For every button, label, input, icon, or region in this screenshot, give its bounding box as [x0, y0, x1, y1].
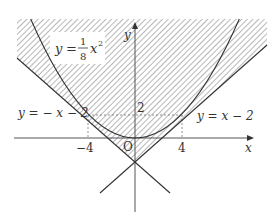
- x-tick-4: 4: [178, 141, 186, 155]
- line-left-label: y = − x − 2: [17, 106, 88, 120]
- svg-text:=: =: [66, 41, 77, 56]
- x-axis-label: x: [245, 141, 252, 155]
- origin-label: O: [123, 140, 133, 154]
- svg-text:y: y: [54, 41, 63, 56]
- svg-text:2: 2: [98, 39, 103, 48]
- svg-text:x: x: [90, 41, 98, 56]
- y-axis-label: y: [123, 28, 131, 42]
- math-figure: y = 1 8 x 2 y = − x − 2 y = x − 2 y x O …: [0, 0, 270, 212]
- svg-text:8: 8: [80, 51, 86, 62]
- line-right-label: y = x − 2: [196, 109, 254, 123]
- svg-text:1: 1: [80, 36, 86, 47]
- x-tick-neg4: −4: [76, 141, 94, 155]
- y-tick-2: 2: [137, 101, 145, 115]
